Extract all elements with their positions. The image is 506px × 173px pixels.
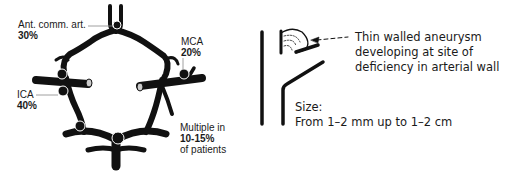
aneurysm-annotation: Thin walled aneurysm developing at site … bbox=[355, 30, 499, 75]
size-value: From 1–2 mm up to 1–2 cm bbox=[295, 115, 452, 130]
annotation-line: Thin walled aneurysm bbox=[355, 30, 499, 45]
size-label: Size: bbox=[295, 100, 452, 115]
label-name: Ant. comm. art. bbox=[18, 19, 86, 30]
label-line1: Multiple in bbox=[180, 122, 226, 133]
annotation-line: deficiency in arterial wall bbox=[355, 60, 499, 75]
label-percent: 10-15% bbox=[180, 133, 226, 144]
label-ica: ICA 40% bbox=[17, 89, 37, 111]
label-percent: 30% bbox=[18, 30, 86, 41]
label-name: MCA bbox=[181, 36, 203, 47]
label-ant-comm-art: Ant. comm. art. 30% bbox=[18, 19, 86, 41]
label-percent: 20% bbox=[181, 47, 203, 58]
label-line3: of patients bbox=[180, 144, 226, 155]
label-percent: 40% bbox=[17, 100, 37, 111]
annotation-line: developing at site of bbox=[355, 45, 499, 60]
size-annotation: Size: From 1–2 mm up to 1–2 cm bbox=[295, 100, 452, 130]
label-multiple: Multiple in 10-15% of patients bbox=[180, 122, 226, 155]
label-name: ICA bbox=[17, 89, 37, 100]
label-mca: MCA 20% bbox=[181, 36, 203, 58]
